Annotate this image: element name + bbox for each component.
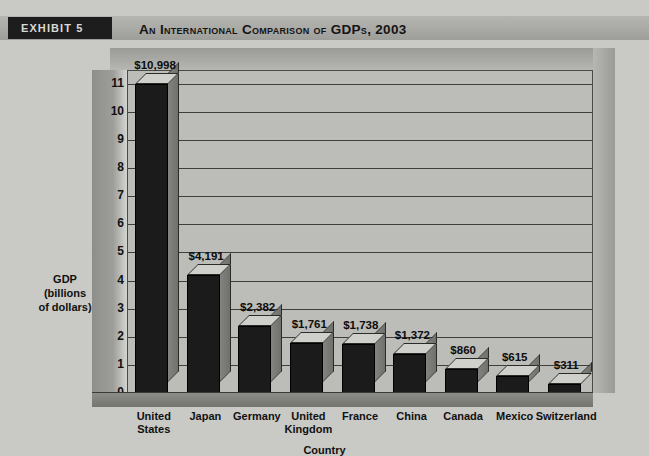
gridline bbox=[128, 196, 592, 197]
bar-front-face bbox=[238, 326, 271, 393]
chart-ceiling-plane bbox=[110, 48, 615, 70]
chart-figure: GDP (billions of dollars) 01234567891011… bbox=[0, 40, 649, 452]
bar-column: $615 bbox=[496, 365, 529, 393]
x-axis-category-label: Switzerland bbox=[534, 410, 598, 423]
y-axis-tick-labels: 01234567891011 bbox=[98, 71, 124, 393]
bar-column: $1,738 bbox=[342, 333, 375, 393]
bar-column: $2,382 bbox=[238, 315, 271, 393]
bar-value-label: $1,372 bbox=[395, 329, 430, 341]
y-axis-tick-label: 3 bbox=[100, 301, 124, 315]
x-axis-title: Country bbox=[0, 444, 649, 456]
bar-value-label: $860 bbox=[450, 344, 476, 356]
y-axis-tick-label: 6 bbox=[100, 216, 124, 230]
bar-column: $1,372 bbox=[393, 343, 426, 393]
gridline bbox=[128, 140, 592, 141]
bar-front-face bbox=[290, 343, 323, 393]
bar-front-face bbox=[135, 84, 168, 393]
bar-column: $311 bbox=[548, 373, 581, 393]
page-title: An International Comparison of GDPs, 200… bbox=[139, 18, 407, 40]
bar-front-face bbox=[342, 344, 375, 393]
bar-value-label: $615 bbox=[502, 351, 528, 363]
x-axis-category-labels: United StatesJapanGermanyUnited KingdomF… bbox=[128, 410, 598, 444]
bar-top-face bbox=[548, 373, 592, 384]
bar-front-face bbox=[445, 369, 478, 393]
y-axis-tick-label: 7 bbox=[100, 188, 124, 202]
bar-side-face bbox=[323, 321, 334, 382]
gridline bbox=[128, 84, 592, 85]
bar-value-label: $1,738 bbox=[343, 319, 378, 331]
bar-value-label: $10,998 bbox=[134, 59, 176, 71]
y-axis-tick-label: 2 bbox=[100, 329, 124, 343]
exhibit-tag-label: EXHIBIT 5 bbox=[8, 22, 83, 34]
y-axis-tick-label: 4 bbox=[100, 273, 124, 287]
y-axis-tick-label: 9 bbox=[100, 132, 124, 146]
bar-column: $860 bbox=[445, 358, 478, 393]
bar-front-face bbox=[393, 354, 426, 393]
bar-side-face bbox=[168, 62, 179, 382]
chart-right-plane bbox=[593, 48, 615, 393]
bar-column: $4,191 bbox=[187, 264, 220, 393]
chart-floor-plane bbox=[92, 392, 593, 407]
chart-plot-area: $10,998$4,191$2,382$1,761$1,738$1,372$86… bbox=[128, 71, 592, 393]
bar-column: $1,761 bbox=[290, 332, 323, 393]
exhibit-tag: EXHIBIT 5 bbox=[8, 17, 112, 39]
y-axis-tick-label: 10 bbox=[100, 104, 124, 118]
gridline bbox=[128, 168, 592, 169]
gridline bbox=[128, 112, 592, 113]
y-axis-tick-label: 1 bbox=[100, 357, 124, 371]
bar-value-label: $1,761 bbox=[292, 318, 327, 330]
bar-front-face bbox=[496, 376, 529, 393]
y-axis-tick-label: 5 bbox=[100, 244, 124, 258]
bar-value-label: $4,191 bbox=[189, 250, 224, 262]
y-axis-tick-label: 11 bbox=[100, 76, 124, 90]
bar-front-face bbox=[187, 275, 220, 393]
bar-column: $10,998 bbox=[135, 73, 168, 393]
bar-value-label: $2,382 bbox=[240, 301, 275, 313]
gridline bbox=[128, 224, 592, 225]
bar-value-label: $311 bbox=[554, 359, 579, 371]
y-axis-tick-label: 8 bbox=[100, 160, 124, 174]
